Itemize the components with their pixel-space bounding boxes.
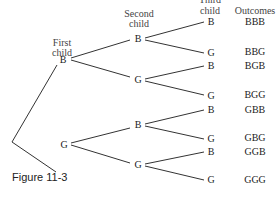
header-second-child: child <box>129 18 149 29</box>
node: G <box>134 159 141 170</box>
node: G <box>207 90 214 101</box>
header-third-child: child <box>200 5 220 16</box>
outcome: GBB <box>245 104 266 115</box>
branch <box>12 142 56 172</box>
node: G <box>207 47 214 58</box>
outcome: GGB <box>244 146 265 157</box>
outcome: GGG <box>244 174 266 185</box>
branch <box>71 40 130 58</box>
node: B <box>135 119 142 130</box>
branch <box>145 66 204 79</box>
branch <box>145 152 204 164</box>
branch <box>71 128 130 143</box>
branch <box>71 145 130 163</box>
node: B <box>208 104 215 115</box>
branch <box>71 60 130 77</box>
node: G <box>60 139 67 150</box>
branch <box>12 65 57 142</box>
branch <box>145 126 204 139</box>
node: B <box>208 60 215 71</box>
branch <box>145 81 204 95</box>
tree-diagram: First child Second child Third child Out… <box>0 0 277 203</box>
node: G <box>207 174 214 185</box>
node: G <box>207 133 214 144</box>
outcome: BBB <box>245 16 265 27</box>
figure-caption: Figure 11-3 <box>12 171 67 183</box>
outcome: BGB <box>245 60 266 71</box>
node: B <box>135 33 142 44</box>
node: B <box>208 146 215 157</box>
branch <box>145 22 204 38</box>
branch <box>145 166 204 180</box>
node: B <box>60 54 67 65</box>
branch <box>145 110 204 124</box>
branch <box>145 40 204 53</box>
outcome: GBG <box>244 132 265 143</box>
header-outcomes: Outcomes <box>235 5 276 16</box>
outcome: BGG <box>244 89 265 100</box>
node: B <box>208 16 215 27</box>
node: G <box>134 74 141 85</box>
outcome: BBG <box>245 46 266 57</box>
